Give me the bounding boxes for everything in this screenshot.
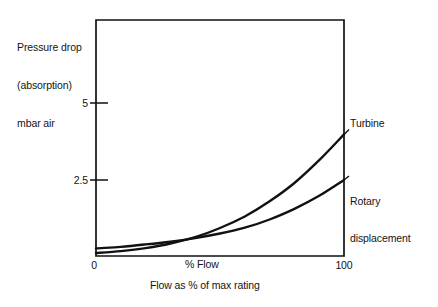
x-axis-inner-label: % Flow [185,258,219,270]
y-tick-label-5: 5 [52,97,88,109]
axis-frame [96,20,344,256]
y-tick-label-2-5: 2.5 [46,174,88,186]
series-label-turbine: Turbine [350,117,385,129]
x-axis-caption: Flow as % of max rating [150,279,260,291]
series-curve-rotary-displacement [96,180,344,248]
series-label-rotary-line-2: displacement [350,232,411,244]
x-tick-label-0: 0 [84,259,104,271]
series-label-rotary-displacement: Rotary displacement [350,170,411,269]
series-label-rotary-line-1: Rotary [350,195,411,207]
series-curve-turbine [96,134,344,253]
chart-figure: Pressure drop (absorption) mbar air 5 2.… [0,0,438,307]
